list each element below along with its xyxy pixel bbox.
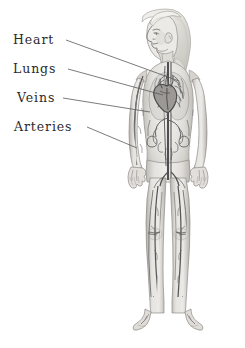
label-veins: Veins [17,92,55,105]
label-arteries: Arteries [14,121,72,134]
label-lungs: Lungs [13,63,56,76]
label-heart: Heart [13,34,54,47]
circulatory-system-diagram: Heart Lungs Veins Arteries [0,0,245,348]
anatomical-figure [0,0,245,348]
extremity-vessels [132,170,205,324]
